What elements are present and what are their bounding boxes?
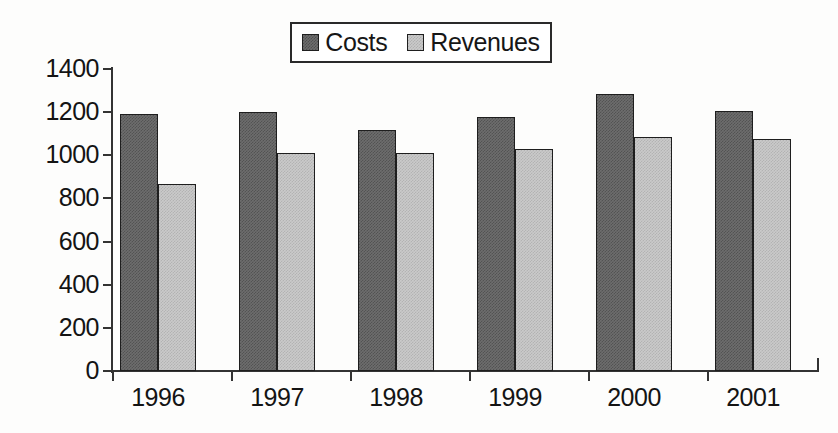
y-axis-tick-label-wrap: 1400 bbox=[0, 56, 99, 81]
y-axis-tick-label: 0 bbox=[7, 358, 99, 383]
y-axis-tick-label-wrap: 400 bbox=[0, 272, 99, 297]
bar-revenues-2000 bbox=[634, 137, 672, 371]
y-axis-tick-label-wrap: 200 bbox=[0, 315, 99, 340]
y-axis-tick bbox=[103, 154, 112, 156]
y-axis-tick-label-wrap: 1000 bbox=[0, 142, 99, 167]
y-axis-tick-label: 1200 bbox=[7, 99, 99, 124]
legend-swatch-revenues-icon bbox=[407, 34, 424, 51]
y-axis-tick bbox=[103, 68, 112, 70]
legend-label-costs: Costs bbox=[325, 30, 387, 55]
x-axis-label-2001: 2001 bbox=[693, 384, 813, 410]
y-axis-tick-label: 1400 bbox=[7, 56, 99, 81]
x-axis-label-1997: 1997 bbox=[217, 384, 337, 410]
x-axis-tick bbox=[350, 372, 352, 381]
legend-swatch-costs-icon bbox=[302, 34, 319, 51]
bar-group-1999 bbox=[477, 69, 553, 371]
x-axis-label-1999: 1999 bbox=[455, 384, 575, 410]
x-axis-tick bbox=[707, 372, 709, 381]
bar-costs-1996 bbox=[120, 114, 158, 371]
x-axis-tick bbox=[231, 372, 233, 381]
legend-entry-costs: Costs bbox=[302, 30, 387, 55]
y-axis-tick bbox=[103, 284, 112, 286]
bar-costs-2000 bbox=[596, 94, 634, 371]
bar-group-2001 bbox=[715, 69, 791, 371]
bar-revenues-2001 bbox=[753, 139, 791, 371]
bar-group-2000 bbox=[596, 69, 672, 371]
y-axis-tick-label: 600 bbox=[7, 229, 99, 254]
y-axis-tick bbox=[103, 370, 112, 372]
y-axis-tick bbox=[103, 327, 112, 329]
y-axis-tick-label-wrap: 1200 bbox=[0, 99, 99, 124]
bar-revenues-1999 bbox=[515, 149, 553, 371]
legend-entry-revenues: Revenues bbox=[407, 30, 539, 55]
bar-revenues-1998 bbox=[396, 153, 434, 371]
y-axis-tick-label-wrap: 600 bbox=[0, 229, 99, 254]
plot-area bbox=[113, 69, 818, 371]
x-axis-tick bbox=[588, 372, 590, 381]
bar-revenues-1997 bbox=[277, 153, 315, 371]
y-axis-tick-label: 1000 bbox=[7, 142, 99, 167]
bar-costs-1997 bbox=[239, 112, 277, 371]
y-axis-tick bbox=[103, 197, 112, 199]
legend-label-revenues: Revenues bbox=[430, 30, 539, 55]
y-axis-tick-label: 400 bbox=[7, 272, 99, 297]
y-axis-tick-label-wrap: 0 bbox=[0, 358, 99, 383]
bar-costs-2001 bbox=[715, 111, 753, 371]
y-axis-tick-label: 200 bbox=[7, 315, 99, 340]
y-axis-tick bbox=[103, 241, 112, 243]
x-axis-label-1998: 1998 bbox=[336, 384, 456, 410]
y-axis-tick bbox=[103, 111, 112, 113]
x-axis-tick bbox=[112, 372, 114, 381]
bar-group-1997 bbox=[239, 69, 315, 371]
bar-revenues-1996 bbox=[158, 184, 196, 371]
x-axis-tick bbox=[469, 372, 471, 381]
bar-costs-1998 bbox=[358, 130, 396, 371]
bar-chart: Costs Revenues 1400120010008006004002000… bbox=[0, 0, 838, 433]
bar-group-1998 bbox=[358, 69, 434, 371]
x-axis-label-2000: 2000 bbox=[574, 384, 694, 410]
y-axis-tick-label: 800 bbox=[7, 185, 99, 210]
y-axis-tick-label-wrap: 800 bbox=[0, 185, 99, 210]
chart-legend: Costs Revenues bbox=[290, 22, 552, 63]
bar-costs-1999 bbox=[477, 117, 515, 371]
bar-group-1996 bbox=[120, 69, 196, 371]
x-axis-label-1996: 1996 bbox=[98, 384, 218, 410]
